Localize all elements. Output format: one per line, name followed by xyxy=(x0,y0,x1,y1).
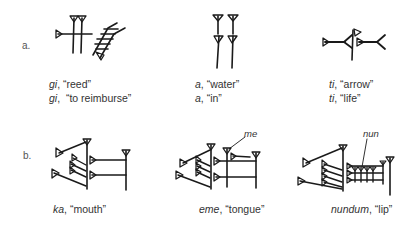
gloss: “reed” xyxy=(63,78,91,90)
caption-gi: gi, “reed” gi, “to reimburse” xyxy=(49,77,131,105)
gloss: “lip” xyxy=(375,203,393,215)
translit: gi xyxy=(49,92,57,104)
gi-sign-icon xyxy=(56,16,125,60)
caption-line: a, “water” xyxy=(195,77,239,91)
translit: eme xyxy=(199,203,219,215)
translit: ka xyxy=(53,203,64,215)
gloss: “arrow” xyxy=(340,78,373,90)
cuneiform-figure xyxy=(0,0,420,226)
translit: gi xyxy=(49,78,57,90)
ti-sign-icon xyxy=(323,29,385,60)
gloss: “to reimburse” xyxy=(66,92,131,104)
caption-nundum: nundum, “lip” xyxy=(331,202,392,216)
gloss: “life” xyxy=(340,92,360,104)
caption-line: ti, “arrow” xyxy=(329,77,373,91)
caption-eme: eme, “tongue” xyxy=(199,202,264,216)
caption-ti: ti, “arrow” ti, “life” xyxy=(329,77,373,105)
caption-line: gi, “reed” xyxy=(49,77,131,91)
caption-a: a, “water” a, “in” xyxy=(195,77,239,105)
caption-line: a, “in” xyxy=(195,91,239,105)
nundum-sign-icon xyxy=(298,139,394,195)
eme-sign-icon xyxy=(176,137,260,189)
annotation-me: me xyxy=(244,128,257,139)
caption-line: gi, “to reimburse” xyxy=(49,91,131,105)
translit: nundum xyxy=(331,203,369,215)
gloss: “tongue” xyxy=(225,203,264,215)
caption-line: ti, “life” xyxy=(329,91,373,105)
a-sign-icon xyxy=(213,15,238,68)
gloss: “water” xyxy=(207,78,240,90)
gloss: “mouth” xyxy=(70,203,106,215)
annotation-nun: nun xyxy=(363,128,379,139)
ka-sign-icon xyxy=(52,139,130,190)
separator: , xyxy=(57,92,66,104)
gloss: “in” xyxy=(207,92,222,104)
caption-ka: ka, “mouth” xyxy=(53,202,106,216)
